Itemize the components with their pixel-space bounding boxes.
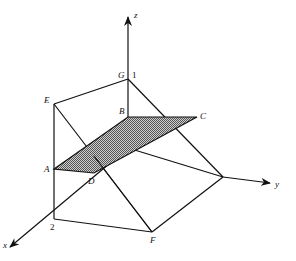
edge-f-ymax: [152, 177, 223, 232]
point-c-label: C: [200, 111, 207, 121]
y-axis: [223, 177, 270, 183]
diagram-canvas: z y x G 1 B C E A D 2 F: [0, 0, 296, 261]
z-axis-label: z: [133, 10, 138, 20]
point-f-label: F: [149, 235, 156, 245]
x-axis-label: x: [2, 240, 7, 250]
point-d-label: D: [87, 176, 95, 186]
edge-2-f: [54, 219, 152, 232]
point-g-label: G: [118, 70, 125, 80]
point-a-label: A: [43, 164, 50, 174]
tick-z-one: 1: [132, 70, 137, 80]
shaded-plane-abcd: [54, 117, 197, 173]
edge-g-e: [54, 79, 128, 104]
point-e-label: E: [43, 95, 50, 105]
y-axis-label: y: [274, 179, 279, 189]
tick-x-two: 2: [50, 222, 55, 232]
edge-e-f-front: [94, 156, 152, 232]
point-b-label: B: [119, 106, 125, 116]
